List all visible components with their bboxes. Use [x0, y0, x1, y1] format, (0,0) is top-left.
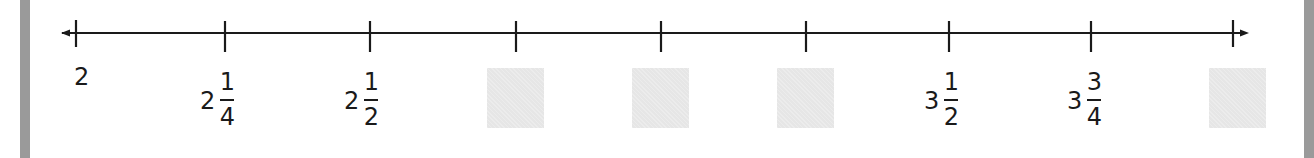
- tick-marks: [76, 20, 1233, 52]
- denominator: 2: [944, 105, 959, 131]
- fraction: 1 2: [362, 70, 380, 131]
- tick-label-3-3-4: 3 3 4: [1067, 60, 1103, 140]
- answer-box-2-3-4[interactable]: [487, 68, 544, 128]
- tick-label-2: 2: [74, 65, 89, 89]
- tick-label-2-1-4: 2 1 4: [200, 60, 236, 140]
- tick-label-3-1-2: 3 1 2: [924, 60, 960, 140]
- fraction-bar: [220, 99, 234, 101]
- number-line-axis: [0, 0, 1313, 60]
- whole-part: 2: [200, 89, 215, 113]
- fraction-bar: [364, 99, 378, 101]
- denominator: 4: [220, 105, 235, 131]
- answer-box-3-1-4[interactable]: [777, 68, 834, 128]
- denominator: 2: [364, 105, 379, 131]
- right-arrow-icon: [1240, 30, 1249, 37]
- answer-box-3[interactable]: [632, 68, 689, 128]
- fraction-bar: [944, 99, 958, 101]
- whole-part: 3: [924, 89, 939, 113]
- fraction: 1 4: [218, 70, 236, 131]
- numerator: 1: [364, 70, 379, 96]
- numerator: 3: [1087, 70, 1102, 96]
- numerator: 1: [220, 70, 235, 96]
- fraction-bar: [1087, 99, 1101, 101]
- left-arrow-icon: [61, 30, 70, 37]
- tick-label-2-1-2: 2 1 2: [344, 60, 380, 140]
- answer-box-4[interactable]: [1209, 68, 1266, 128]
- whole-part: 3: [1067, 89, 1082, 113]
- numerator: 1: [944, 70, 959, 96]
- fraction: 1 2: [942, 70, 960, 131]
- denominator: 4: [1087, 105, 1102, 131]
- whole-part: 2: [344, 89, 359, 113]
- fraction: 3 4: [1085, 70, 1103, 131]
